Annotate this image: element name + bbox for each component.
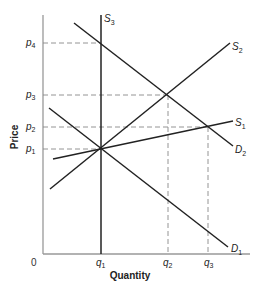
supply-demand-diagram: S3 S2 S1 D2 D1 p4 p3 p2 p1 q1 q2 q3 0 Qu… [0,0,256,289]
label-s3: S3 [104,13,115,26]
label-s1: S1 [235,117,246,130]
label-d2: D2 [235,144,246,157]
price-label-p4: p4 [25,37,36,49]
curves [49,15,233,254]
guide-lines [43,43,208,254]
curve-s2 [50,43,230,189]
label-s2: S2 [232,41,243,54]
quantity-label-q1: q1 [96,257,106,269]
price-label-p2: p2 [25,121,36,133]
curve-d2 [74,23,233,146]
curve-d1 [49,108,228,247]
price-label-p1: p1 [25,143,36,155]
quantity-label-q2: q2 [163,257,173,269]
price-label-p3: p3 [25,89,36,101]
origin-label: 0 [31,257,37,268]
quantity-label-q3: q3 [204,257,214,269]
y-axis-title: Price [9,124,20,149]
x-axis-title: Quantity [110,270,151,281]
